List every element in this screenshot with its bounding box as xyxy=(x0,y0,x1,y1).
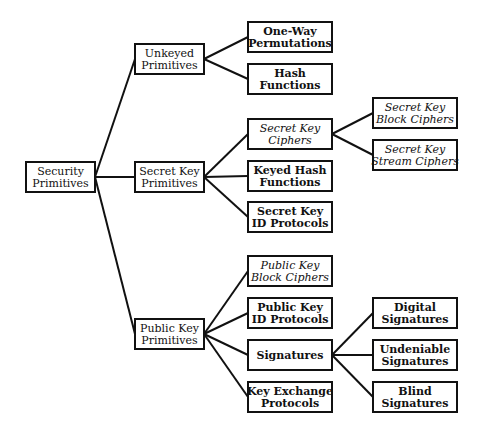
node-label-line: Stream Ciphers xyxy=(371,155,459,168)
node-label-line: ID Protocols xyxy=(252,313,329,326)
edge-secret-key-primitives-to-secret-key-id-protocols xyxy=(204,177,248,217)
node-blind-signatures: BlindSignatures xyxy=(373,382,457,412)
node-label-line: Signatures xyxy=(381,313,448,326)
node-label-line: Functions xyxy=(259,176,320,189)
edge-unkeyed-primitives-to-hash-functions xyxy=(204,59,248,79)
node-undeniable-signatures: UndeniableSignatures xyxy=(373,340,457,370)
edge-secret-key-primitives-to-keyed-hash-functions xyxy=(204,176,248,177)
node-label-line: Functions xyxy=(259,79,320,92)
node-label-line: Block Ciphers xyxy=(250,271,329,284)
node-label-line: Primitives xyxy=(141,177,198,190)
edge-security-primitives-to-unkeyed-primitives xyxy=(95,59,135,177)
node-hash-functions: HashFunctions xyxy=(248,64,332,94)
edge-security-primitives-to-public-key-primitives xyxy=(95,177,135,334)
edge-secret-key-ciphers-to-secret-key-stream-ciphers xyxy=(332,134,373,155)
edge-unkeyed-primitives-to-one-way-permutations xyxy=(204,37,248,59)
node-secret-key-id-protocols: Secret KeyID Protocols xyxy=(248,202,332,232)
security-primitives-taxonomy-diagram: SecurityPrimitivesUnkeyedPrimitivesSecre… xyxy=(0,0,482,434)
node-label-line: Primitives xyxy=(141,59,198,72)
node-digital-signatures: DigitalSignatures xyxy=(373,298,457,328)
node-label-line: Ciphers xyxy=(268,134,312,147)
node-secret-key-block-ciphers: Secret KeyBlock Ciphers xyxy=(373,98,457,128)
node-secret-key-ciphers: Secret KeyCiphers xyxy=(248,119,332,149)
edge-signatures-to-blind-signatures xyxy=(332,355,373,397)
node-public-key-id-protocols: Public KeyID Protocols xyxy=(248,298,332,328)
edge-secret-key-primitives-to-secret-key-ciphers xyxy=(204,134,248,177)
edge-secret-key-ciphers-to-secret-key-block-ciphers xyxy=(332,113,373,134)
node-public-key-block-ciphers: Public KeyBlock Ciphers xyxy=(248,256,332,286)
node-label-line: Protocols xyxy=(261,397,319,410)
node-label-line: Primitives xyxy=(141,334,198,347)
node-unkeyed-primitives: UnkeyedPrimitives xyxy=(135,44,204,74)
node-public-key-primitives: Public KeyPrimitives xyxy=(135,319,204,349)
node-label-line: ID Protocols xyxy=(252,217,329,230)
node-security-primitives: SecurityPrimitives xyxy=(26,162,95,192)
node-label-line: Block Ciphers xyxy=(375,113,454,126)
node-label-line: Primitives xyxy=(32,177,89,190)
node-key-exchange-protocols: Key ExchangeProtocols xyxy=(247,382,333,412)
node-secret-key-stream-ciphers: Secret KeyStream Ciphers xyxy=(371,140,459,170)
node-label-line: Signatures xyxy=(256,349,323,362)
node-keyed-hash-functions: Keyed HashFunctions xyxy=(248,161,332,191)
node-secret-key-primitives: Secret KeyPrimitives xyxy=(135,162,204,192)
node-label-line: Signatures xyxy=(381,355,448,368)
edge-signatures-to-digital-signatures xyxy=(332,313,373,355)
node-signatures: Signatures xyxy=(248,340,332,370)
node-label-line: Permutations xyxy=(248,37,331,50)
node-label-line: Signatures xyxy=(381,397,448,410)
node-one-way-permutations: One-WayPermutations xyxy=(248,22,332,52)
